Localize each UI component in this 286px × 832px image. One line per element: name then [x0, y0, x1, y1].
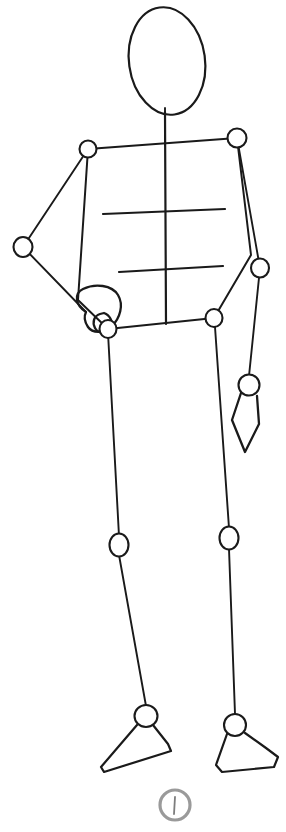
knee-left-joint — [110, 534, 129, 557]
figure-drawing-canvas: Gesture mannequin stick figure sketch — [0, 0, 286, 832]
elbow-right-joint — [251, 259, 269, 278]
ankle-left-joint — [135, 705, 158, 727]
wrist-right-joint — [239, 375, 260, 396]
knee-right-joint — [220, 527, 239, 550]
page-mark-tick — [174, 797, 175, 814]
shoulder-left-joint — [80, 141, 97, 158]
ankle-right-joint — [224, 714, 246, 736]
elbow-left-joint — [14, 237, 33, 257]
hip-right-joint — [206, 309, 223, 327]
shoulder-right-joint — [228, 129, 247, 148]
hip-left-joint — [100, 320, 117, 338]
